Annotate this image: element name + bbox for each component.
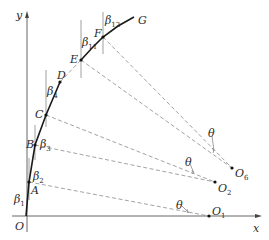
label-f: F [93, 27, 102, 40]
center-o6 [230, 166, 233, 169]
point-e [79, 58, 82, 61]
label-o2: O2 [218, 182, 232, 197]
label-b: B [25, 138, 34, 151]
label-o1: O1 [212, 205, 226, 220]
label-beta2: β2 [32, 170, 44, 185]
label-e: E [69, 53, 78, 66]
label-beta1: β1 [13, 193, 25, 208]
label-c: C [35, 108, 44, 121]
label-g: G [138, 14, 147, 27]
center-o2 [213, 180, 216, 183]
radius-lines [29, 37, 232, 216]
label-theta-o1: θ [176, 199, 183, 212]
label-o6: O6 [235, 167, 249, 182]
theta-annotations: θ θ θ [176, 127, 215, 213]
label-d: D [56, 69, 66, 82]
label-beta3: β3 [39, 138, 51, 153]
trajectory-diagram: y x O A B C D [0, 0, 269, 240]
y-axis-arrow-icon [25, 11, 29, 18]
point-c [44, 113, 47, 116]
center-labels: O1 O2 O6 [212, 167, 249, 220]
label-beta12: β12 [104, 14, 120, 29]
vertical-reference-lines [29, 12, 103, 200]
label-theta-o2: θ [185, 156, 192, 169]
x-axis-arrow-icon [255, 214, 262, 218]
label-beta4: β4 [46, 85, 58, 100]
center-o1 [207, 214, 210, 217]
point-f [101, 35, 104, 38]
origin-label: O [15, 220, 24, 233]
label-theta-o6: θ [208, 127, 215, 140]
axes: y x O [12, 9, 262, 235]
label-a: A [30, 184, 39, 197]
y-axis-label: y [15, 9, 23, 22]
curve-points [27, 35, 233, 217]
x-axis-label: x [253, 222, 260, 235]
